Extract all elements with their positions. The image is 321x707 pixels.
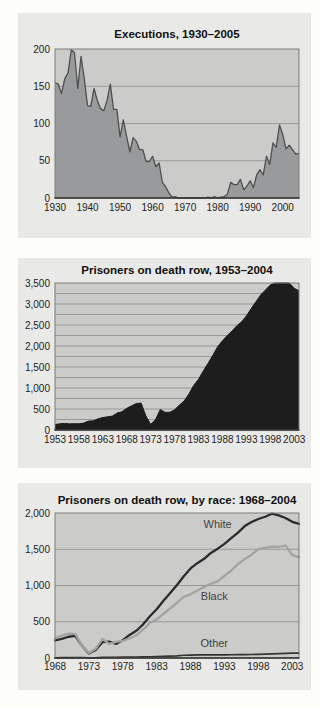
y-axis-label: 150 [33, 81, 50, 92]
x-axis-label: 1930 [44, 202, 67, 213]
x-axis-label: 1993 [213, 661, 236, 672]
y-axis-label: 2,000 [25, 341, 50, 352]
death-row-total-chart-panel: Prisoners on death row, 1953–2004 05001,… [18, 258, 311, 468]
x-axis-label: 1980 [207, 202, 230, 213]
y-axis-label: 100 [33, 118, 50, 129]
x-axis-label: 1978 [163, 434, 186, 445]
y-axis-label: 2,500 [25, 320, 50, 331]
y-axis-label: 3,500 [25, 278, 50, 289]
x-axis-label: 1968 [116, 434, 139, 445]
x-axis-label: 1960 [141, 202, 164, 213]
death-row-by-race-chart: 05001,0001,5002,000196819731978198319881… [18, 483, 311, 690]
y-axis-label: 50 [39, 155, 51, 166]
x-axis-label: 1998 [259, 434, 282, 445]
x-axis-label: 1973 [78, 661, 101, 672]
x-axis-label: 1950 [109, 202, 132, 213]
death-row-by-race-chart-panel: Prisoners on death row, by race: 1968–20… [18, 483, 311, 690]
y-axis-label: 200 [33, 44, 50, 55]
series-label-white: White [204, 518, 232, 530]
x-axis-label: 1968 [44, 661, 67, 672]
x-axis-label: 1990 [239, 202, 262, 213]
x-axis-label: 1988 [179, 661, 202, 672]
y-axis-label: 500 [33, 404, 50, 415]
report-page: { "theme": { "page_bg": "#fdfdfb", "pane… [0, 0, 321, 707]
x-axis-label: 1958 [68, 434, 91, 445]
series-label-black: Black [201, 590, 228, 602]
y-axis-label: 1,000 [25, 580, 50, 591]
x-axis-label: 1963 [92, 434, 115, 445]
x-axis-label: 1983 [146, 661, 169, 672]
x-axis-label: 1978 [112, 661, 135, 672]
x-axis-label: 1973 [140, 434, 163, 445]
x-axis-label: 2003 [281, 661, 304, 672]
executions-chart: 0501001502001930194019501960197019801990… [18, 13, 311, 238]
x-axis-label: 1988 [211, 434, 234, 445]
x-axis-label: 1940 [76, 202, 99, 213]
x-axis-label: 1998 [247, 661, 270, 672]
series-label-other: Other [201, 637, 229, 649]
y-axis-label: 1,500 [25, 362, 50, 373]
y-axis-label: 1,500 [25, 544, 50, 555]
x-axis-label: 1983 [187, 434, 210, 445]
y-axis-label: 500 [33, 616, 50, 627]
executions-chart-panel: Executions, 1930–2005 050100150200193019… [18, 13, 311, 238]
y-axis-label: 3,000 [25, 299, 50, 310]
death-row-total-chart: 05001,0001,5002,0002,5003,0003,500195319… [18, 258, 311, 468]
x-axis-label: 1993 [235, 434, 258, 445]
y-axis-label: 1,000 [25, 383, 50, 394]
x-axis-label: 2003 [283, 434, 306, 445]
y-axis-label: 2,000 [25, 508, 50, 519]
x-axis-label: 1953 [44, 434, 67, 445]
x-axis-label: 2000 [272, 202, 295, 213]
x-axis-label: 1970 [174, 202, 197, 213]
